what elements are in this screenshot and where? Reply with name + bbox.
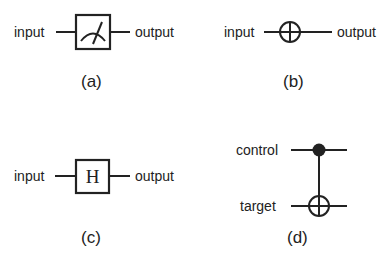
caption-a: (a) bbox=[81, 72, 102, 91]
control-dot-icon bbox=[313, 144, 326, 157]
target-oplus-icon bbox=[309, 196, 329, 216]
target-label: target bbox=[240, 198, 276, 214]
oplus-icon bbox=[280, 22, 300, 42]
output-label: output bbox=[135, 168, 174, 184]
panel-a: input output (a) bbox=[14, 15, 174, 91]
control-label: control bbox=[236, 142, 278, 158]
caption-d: (d) bbox=[287, 228, 308, 247]
panel-d: control target (d) bbox=[236, 142, 347, 247]
input-label: input bbox=[224, 24, 254, 40]
output-label: output bbox=[337, 24, 376, 40]
input-label: input bbox=[14, 168, 44, 184]
panel-b: input output (b) bbox=[224, 22, 376, 91]
input-label: input bbox=[14, 24, 44, 40]
output-label: output bbox=[135, 24, 174, 40]
panel-c: input H output (c) bbox=[14, 160, 174, 247]
caption-b: (b) bbox=[283, 72, 304, 91]
caption-c: (c) bbox=[81, 228, 101, 247]
quantum-gates-diagram: input output (a) input output (b) input … bbox=[0, 0, 385, 263]
hadamard-label: H bbox=[86, 166, 100, 187]
